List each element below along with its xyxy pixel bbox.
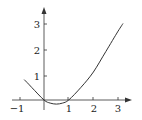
y-axis-arrow-icon	[42, 7, 47, 14]
chart: −1 1 2 3 1 2 3	[0, 0, 142, 120]
y-ticks	[44, 24, 47, 76]
y-tick-label: 1	[34, 71, 40, 82]
x-axis-arrow-icon	[125, 98, 132, 103]
parabola-curve	[24, 24, 123, 105]
x-tick-label: 2	[91, 103, 97, 114]
x-tick-label: −1	[10, 103, 25, 114]
y-tick-label: 3	[34, 19, 40, 30]
y-tick-label: 2	[34, 45, 40, 56]
x-tick-label: 1	[66, 103, 72, 114]
x-tick-label: 3	[115, 103, 121, 114]
